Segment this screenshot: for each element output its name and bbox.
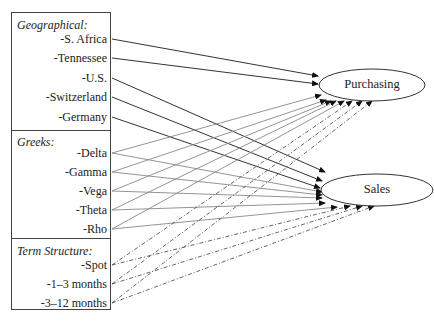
item-gamma: -Gamma bbox=[65, 165, 107, 180]
group-geographical: Geographical: -S. Africa -Tennessee -U.S… bbox=[11, 12, 111, 131]
group-title: Term Structure: bbox=[17, 244, 92, 259]
group-term-structure: Term Structure: -Spot -1–3 months -3–12 … bbox=[11, 238, 111, 310]
item-germany: -Germany bbox=[58, 110, 107, 125]
sales-node-label: Sales bbox=[321, 182, 433, 197]
greeks-arrows bbox=[112, 95, 344, 229]
geographical-arrows bbox=[112, 39, 325, 188]
path-diagram: Geographical: -S. Africa -Tennessee -U.S… bbox=[0, 0, 434, 321]
item-3-12-months: -3–12 months bbox=[41, 296, 107, 311]
item-s-africa: -S. Africa bbox=[60, 32, 107, 47]
item-theta: -Theta bbox=[76, 203, 107, 218]
item-spot: -Spot bbox=[81, 258, 107, 273]
group-greeks: Greeks: -Delta -Gamma -Vega -Theta -Rho bbox=[11, 130, 111, 239]
term-structure-arrows bbox=[112, 101, 374, 303]
purchasing-node-label: Purchasing bbox=[319, 77, 425, 92]
item-us: -U.S. bbox=[82, 71, 107, 86]
group-title: Geographical: bbox=[17, 18, 88, 33]
item-tennessee: -Tennessee bbox=[54, 51, 107, 66]
item-delta: -Delta bbox=[77, 146, 107, 161]
item-vega: -Vega bbox=[79, 184, 107, 199]
item-rho: -Rho bbox=[83, 222, 107, 237]
item-1-3-months: -1–3 months bbox=[47, 277, 107, 292]
group-title: Greeks: bbox=[17, 135, 55, 150]
item-switzerland: -Switzerland bbox=[46, 90, 107, 105]
